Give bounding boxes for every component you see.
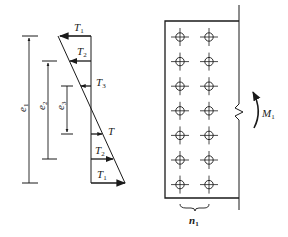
- bolt: [171, 53, 189, 71]
- label-t1-top: T1: [74, 21, 84, 35]
- bolt: [200, 151, 218, 169]
- label-t1-bottom: T1: [97, 168, 107, 182]
- bolt: [200, 77, 218, 95]
- bolt: [171, 151, 189, 169]
- bolted-plate: M1 n1: [165, 5, 275, 228]
- break-line: [235, 5, 243, 210]
- label-e2: e2: [35, 101, 49, 110]
- bolt: [200, 126, 218, 144]
- bolt: [200, 102, 218, 120]
- bolt: [200, 176, 218, 194]
- label-t: T: [108, 125, 115, 137]
- label-e1: e1: [16, 103, 30, 112]
- moment-arrow: [253, 92, 258, 128]
- bolt: [200, 53, 218, 71]
- bolt-group-diagram: T1 T2 T3 T T2 T1 e1 e2 e3 M1 n1: [0, 0, 288, 237]
- label-t3: T3: [96, 76, 106, 90]
- force-distribution: T1 T2 T3 T T2 T1: [58, 21, 125, 183]
- bolt: [171, 102, 189, 120]
- dimension-lines: e1 e2 e3: [16, 36, 73, 183]
- bolt: [200, 28, 218, 46]
- label-e3: e3: [54, 101, 68, 110]
- label-n1: n1: [189, 214, 199, 228]
- label-t2-bottom: T2: [95, 144, 105, 158]
- bolt: [171, 77, 189, 95]
- brace: [180, 204, 209, 211]
- bolt: [171, 126, 189, 144]
- label-t2-top: T2: [77, 45, 87, 59]
- bolt: [171, 28, 189, 46]
- bolt: [171, 176, 189, 194]
- label-m1: M1: [261, 107, 275, 121]
- bolt-grid: [171, 28, 218, 194]
